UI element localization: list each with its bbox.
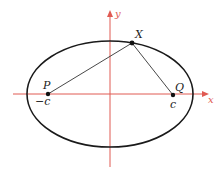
segment-xq [132, 43, 173, 95]
point-q-label: Q [175, 81, 184, 94]
y-axis [107, 10, 113, 167]
x-axis-label: x [208, 94, 214, 105]
point-p-coord-label: −c [35, 95, 50, 108]
point-p-label: P [42, 79, 51, 92]
ellipse-diagram: x y P −c Q c X [0, 0, 222, 176]
point-x-label: X [134, 28, 144, 41]
y-axis-label: y [114, 8, 121, 19]
point-x [130, 41, 135, 46]
point-q-coord-label: c [170, 98, 176, 111]
y-axis-arrow-icon [107, 10, 113, 17]
